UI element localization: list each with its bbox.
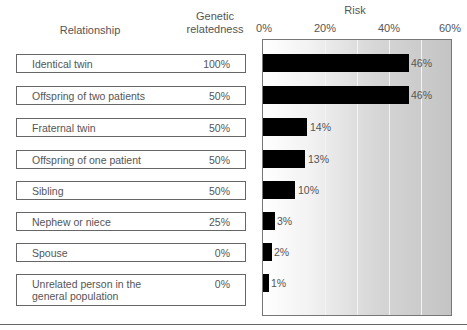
row-label: Offspring of one patient — [32, 154, 141, 166]
risk-header: Risk — [330, 4, 380, 17]
genetic-header-line1: Genetic — [180, 10, 250, 23]
row-label: Sibling — [32, 185, 64, 197]
row-label: Fraternal twin — [32, 122, 96, 134]
gridline-20 — [325, 40, 326, 315]
row-unrelated: Unrelated person in the general populati… — [16, 274, 246, 306]
tick-60: 60% — [439, 22, 461, 34]
row-relatedness: 50% — [209, 90, 230, 102]
row-relatedness: 100% — [203, 58, 230, 70]
bar-identical-twin — [263, 54, 409, 72]
row-relatedness: 25% — [209, 216, 230, 228]
gridline-40 — [389, 40, 390, 315]
row-label: Identical twin — [32, 58, 93, 70]
bar-value: 2% — [274, 246, 289, 258]
row-label: Nephew or niece — [32, 216, 111, 228]
bar-value: 46% — [411, 57, 432, 69]
bar-nephew-niece — [263, 212, 275, 230]
row-label: Unrelated person in the general populati… — [32, 278, 162, 302]
bar-value: 13% — [308, 153, 329, 165]
genetic-relatedness-header: Genetic relatedness — [180, 10, 250, 36]
bar-value: 1% — [271, 277, 286, 289]
tick-40: 40% — [378, 22, 400, 34]
genetic-header-line2: relatedness — [180, 23, 250, 36]
row-relatedness: 0% — [215, 247, 230, 259]
bar-unrelated — [263, 274, 269, 292]
row-nephew-niece: Nephew or niece 25% — [16, 212, 246, 231]
row-fraternal-twin: Fraternal twin 50% — [16, 118, 246, 137]
row-label: Offspring of two patients — [32, 90, 145, 102]
bar-value: 3% — [277, 215, 292, 227]
bar-fraternal-twin — [263, 118, 307, 136]
bar-value: 14% — [310, 121, 331, 133]
row-relatedness: 0% — [215, 278, 230, 290]
row-spouse: Spouse 0% — [16, 243, 246, 262]
relationship-header: Relationship — [30, 24, 150, 37]
plot-area — [262, 39, 452, 316]
row-relatedness: 50% — [209, 154, 230, 166]
bar-value: 10% — [298, 184, 319, 196]
row-identical-twin: Identical twin 100% — [16, 54, 246, 73]
row-sibling: Sibling 50% — [16, 181, 246, 200]
row-relatedness: 50% — [209, 185, 230, 197]
tick-20: 20% — [314, 22, 336, 34]
row-label: Spouse — [32, 247, 68, 259]
row-relatedness: 50% — [209, 122, 230, 134]
gridline-50 — [421, 40, 422, 315]
gridline-30 — [357, 40, 358, 315]
bar-sibling — [263, 181, 295, 199]
row-offspring-two: Offspring of two patients 50% — [16, 86, 246, 105]
bar-spouse — [263, 243, 272, 261]
row-offspring-one: Offspring of one patient 50% — [16, 150, 246, 169]
bottom-divider — [0, 324, 467, 325]
bar-value: 46% — [411, 89, 432, 101]
bar-offspring-two — [263, 86, 409, 104]
tick-0: 0% — [256, 22, 272, 34]
bar-offspring-one — [263, 150, 305, 168]
